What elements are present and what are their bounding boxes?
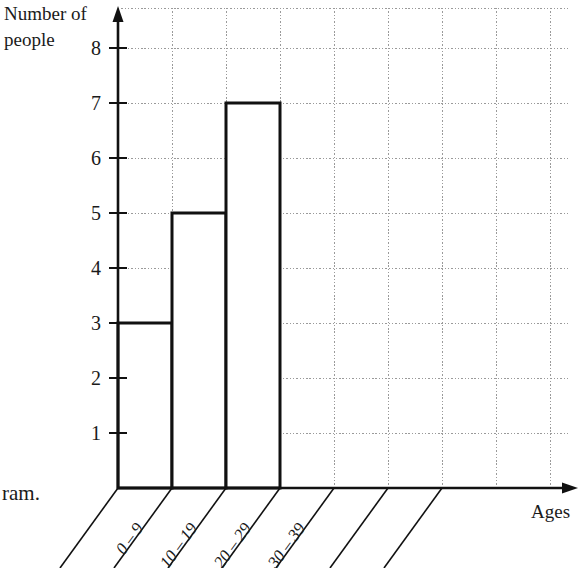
y-tick-label: 4 — [91, 257, 101, 279]
histogram-bar — [226, 103, 280, 488]
y-tick-label: 3 — [91, 312, 101, 334]
x-category-labels: 0 – 910 – 1920 – 2930 – 39 — [112, 519, 310, 568]
y-axis-title-line2: people — [4, 29, 55, 50]
x-axis-title: Ages — [531, 501, 570, 522]
category-slant-line — [330, 488, 388, 568]
y-tick-labels: 12345678 — [91, 37, 101, 444]
histogram-chart: 12345678 0 – 910 – 1920 – 2930 – 39 Numb… — [0, 0, 587, 568]
y-tick-label: 2 — [91, 367, 101, 389]
x-category-label: 10 – 19 — [156, 519, 202, 568]
y-tick-label: 5 — [91, 202, 101, 224]
category-slant-line — [384, 488, 442, 568]
x-category-label: 20 – 29 — [210, 519, 256, 568]
chart-canvas: 12345678 0 – 910 – 1920 – 2930 – 39 Numb… — [0, 0, 587, 568]
y-tick-label: 7 — [91, 92, 101, 114]
bars-group — [118, 103, 280, 488]
y-tick-label: 6 — [91, 147, 101, 169]
histogram-bar — [172, 213, 226, 488]
histogram-bar — [118, 323, 172, 488]
x-axis-arrowhead — [562, 483, 578, 494]
x-category-label: 30 – 39 — [263, 519, 309, 568]
y-tick-label: 8 — [91, 37, 101, 59]
y-tick-label: 1 — [91, 422, 101, 444]
side-note-text: ram. — [2, 481, 40, 505]
y-axis-title-line1: Number of — [4, 3, 88, 24]
category-slant-line — [60, 488, 118, 568]
x-category-label: 0 – 9 — [112, 519, 148, 558]
